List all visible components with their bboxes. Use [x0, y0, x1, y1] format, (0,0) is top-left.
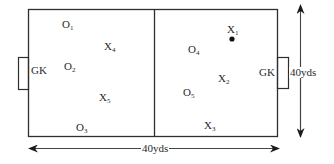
height-dimension-label: 40yds: [289, 67, 317, 78]
player-O1: O1: [62, 19, 73, 30]
ball-icon: [229, 36, 234, 41]
width-dimension-label: 40yds: [141, 143, 169, 154]
left-goal: [19, 58, 29, 90]
player-X3: X3: [204, 120, 215, 131]
goalkeeper-left-label: GK: [31, 65, 47, 76]
player-X1: X1: [227, 24, 238, 35]
player-O3: O3: [76, 122, 87, 133]
field-lines: [0, 0, 334, 164]
soccer-field-diagram: GK GK O1 O2 O3 O4 O5 X1 X2 X3 X4 X5 40yd…: [0, 0, 334, 164]
player-X2: X2: [218, 73, 229, 84]
player-X5: X5: [99, 92, 110, 103]
player-X4: X4: [104, 41, 115, 52]
player-O5: O5: [183, 87, 194, 98]
player-O2: O2: [64, 61, 75, 72]
player-O4: O4: [188, 44, 199, 55]
right-goal: [278, 58, 289, 89]
goalkeeper-right-label: GK: [259, 67, 275, 78]
